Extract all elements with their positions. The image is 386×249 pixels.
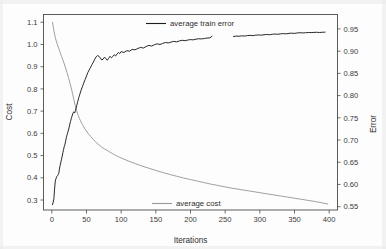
series-group xyxy=(53,22,328,204)
legend-label-train-error: average train error xyxy=(170,19,235,28)
x-tick-label: 100 xyxy=(115,215,128,224)
y-left-tick-label: 0.5 xyxy=(27,151,38,160)
y-axis-right-ticks: 0.550.600.650.700.750.800.850.900.95 xyxy=(338,25,359,212)
x-tick-label: 300 xyxy=(254,215,267,224)
y-left-tick-label: 1.1 xyxy=(27,18,38,27)
y-right-tick-label: 0.95 xyxy=(344,25,359,34)
x-tick-label: 350 xyxy=(288,215,301,224)
y-right-tick-label: 0.55 xyxy=(344,202,359,211)
y-left-tick-label: 0.9 xyxy=(27,62,38,71)
y-right-tick-label: 0.90 xyxy=(344,47,359,56)
x-axis-ticks: 050100150200250300350400 xyxy=(50,210,336,224)
y-right-tick-label: 0.60 xyxy=(344,180,359,189)
y-right-tick-label: 0.85 xyxy=(344,69,359,78)
y-axis-left-title: Cost xyxy=(5,103,14,121)
x-tick-label: 150 xyxy=(149,215,162,224)
x-tick-label: 200 xyxy=(184,215,197,224)
plot-frame xyxy=(44,15,338,211)
chart-page: 0.30.40.50.60.70.80.91.01.1 0.550.600.65… xyxy=(0,0,386,249)
legend-entry-average-train-error: average train error xyxy=(146,19,235,28)
x-axis-title: Iterations xyxy=(174,236,208,245)
y-left-tick-label: 1.0 xyxy=(27,40,38,49)
y-left-tick-label: 0.6 xyxy=(27,129,38,138)
x-tick-label: 250 xyxy=(219,215,232,224)
x-tick-label: 0 xyxy=(50,215,54,224)
y-left-tick-label: 0.7 xyxy=(27,107,38,116)
x-tick-label: 50 xyxy=(82,215,90,224)
y-right-tick-label: 0.80 xyxy=(344,91,359,100)
legend-entry-average-cost: average cost xyxy=(152,199,221,208)
y-axis-left-ticks: 0.30.40.50.60.70.80.91.01.1 xyxy=(27,18,44,205)
dual-axis-line-chart: 0.30.40.50.60.70.80.91.01.1 0.550.600.65… xyxy=(0,0,386,249)
series-line-average-cost xyxy=(53,22,328,204)
y-right-tick-label: 0.65 xyxy=(344,158,359,167)
y-left-tick-label: 0.3 xyxy=(27,196,38,205)
y-right-tick-label: 0.70 xyxy=(344,136,359,145)
y-left-tick-label: 0.4 xyxy=(27,173,38,182)
y-right-tick-label: 0.75 xyxy=(344,114,359,123)
y-axis-right-title: Error xyxy=(369,115,378,133)
y-left-tick-label: 0.8 xyxy=(27,85,38,94)
x-tick-label: 400 xyxy=(323,215,336,224)
legend-label-average-cost: average cost xyxy=(176,199,221,208)
